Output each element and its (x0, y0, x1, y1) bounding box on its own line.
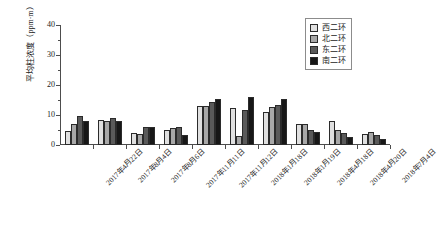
bar (314, 132, 320, 145)
legend-item: 东二环 (310, 44, 346, 55)
bar (215, 99, 221, 145)
y-tick-mark (56, 145, 60, 146)
legend-label: 西二环 (322, 24, 346, 32)
y-tick-label: 10 (47, 111, 55, 119)
bar-group (159, 25, 192, 145)
bar-group (357, 25, 390, 145)
bar (347, 137, 353, 145)
legend-label: 北二环 (322, 35, 346, 43)
y-tick-label: 30 (47, 51, 55, 59)
x-axis-tick-labels: 2017年4月22日2017年8月4日2017年8月6日2017年11月11日2… (60, 148, 390, 232)
bar-group (60, 25, 93, 145)
legend-label: 南二环 (322, 57, 346, 65)
legend-swatch (310, 46, 318, 54)
bar (116, 121, 122, 145)
legend-item: 西二环 (310, 22, 346, 33)
bar-group (126, 25, 159, 145)
x-tick-label: 2017年4月22日 (104, 148, 143, 187)
legend-item: 北二环 (310, 33, 346, 44)
bar-group (225, 25, 258, 145)
x-tick-label: 2017年8月6日 (169, 148, 205, 184)
legend-label: 东二环 (322, 46, 346, 54)
y-tick-label: 0 (51, 141, 55, 149)
bar-group (192, 25, 225, 145)
y-axis-title: 平均柱浓度（ppm·m） (27, 0, 35, 107)
legend-swatch (310, 35, 318, 43)
legend-swatch (310, 57, 318, 65)
y-tick-label: 40 (47, 21, 55, 29)
bar (380, 139, 386, 145)
y-tick-label: 20 (47, 81, 55, 89)
bar-group (258, 25, 291, 145)
bar (83, 121, 89, 145)
legend-swatch (310, 24, 318, 32)
x-tick-mark (390, 145, 391, 149)
bar (182, 135, 188, 146)
bar (281, 99, 287, 145)
legend-item: 南二环 (310, 55, 346, 66)
bar (149, 127, 155, 145)
chart-legend: 西二环北二环东二环南二环 (305, 18, 352, 70)
bar (248, 97, 254, 145)
bar-group (93, 25, 126, 145)
